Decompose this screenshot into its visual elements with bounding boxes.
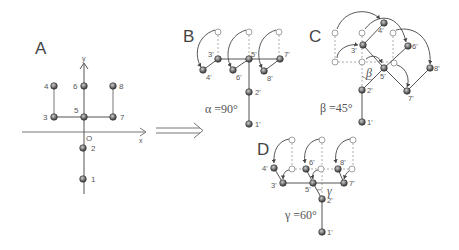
node-label-7p: 7' <box>408 94 414 103</box>
node-label-6p: 6' <box>236 73 242 82</box>
angle-label-gamma: γ =60° <box>284 208 317 222</box>
node-label-6p: 6' <box>309 158 315 167</box>
x-axis-label: x <box>139 137 143 144</box>
panel-b: B 3' 4' 5' 6' 7' 8' 2' 1' <box>183 27 290 129</box>
panel-label-b: B <box>183 27 194 46</box>
node-label-4p: 4' <box>378 26 384 35</box>
panel-label-c: C <box>309 27 321 46</box>
node-label-3p: 3' <box>351 46 357 55</box>
node-label-3p: 3' <box>208 50 214 59</box>
node-label-6: 6 <box>73 82 78 91</box>
node-3 <box>51 114 58 121</box>
panel-label-d: D <box>257 140 269 159</box>
node-2p <box>246 89 253 96</box>
node-label-5p: 5' <box>380 72 386 81</box>
node-8 <box>110 83 117 90</box>
node-label-8: 8 <box>119 82 124 91</box>
node-label-4: 4 <box>44 82 49 91</box>
node-label-3: 3 <box>43 113 48 122</box>
node-label-1p: 1' <box>255 120 261 129</box>
origin-label: O <box>86 134 92 143</box>
angle-label-beta: β =45° <box>320 101 353 115</box>
node-label-2p: 2' <box>367 86 373 95</box>
node-label-4p: 4' <box>206 73 212 82</box>
node-label-2: 2 <box>91 144 96 153</box>
node-label-6p: 6' <box>412 42 418 51</box>
node-label-8p: 8' <box>267 74 273 83</box>
node-label-1p: 1' <box>327 228 333 237</box>
panel-c: C β <box>309 12 440 127</box>
node-7 <box>110 114 117 121</box>
implies-arrow-icon <box>156 123 203 138</box>
node-label-1: 1 <box>91 175 96 184</box>
node-4 <box>51 83 58 90</box>
node-label-8p: 8' <box>434 64 440 73</box>
node-label-5p: 5' <box>251 50 257 59</box>
node-5 <box>81 114 88 121</box>
y-axis-label: y <box>82 55 86 63</box>
node-label-7p: 7' <box>284 50 290 59</box>
node-3p <box>215 56 222 63</box>
node-label-5p: 5' <box>305 185 311 194</box>
node-1 <box>80 176 87 183</box>
node-7p <box>277 56 284 63</box>
node-label-1p: 1' <box>367 118 373 127</box>
node-label-2p: 2' <box>327 196 333 205</box>
panel-d: D γ <box>257 137 356 237</box>
node-2 <box>80 145 87 152</box>
node-label-4p: 4' <box>262 164 268 173</box>
node-label-7: 7 <box>120 113 125 122</box>
panel-label-a: A <box>35 39 47 58</box>
node-label-5: 5 <box>74 106 79 115</box>
panel-a: A y x O 4 6 8 3 5 7 2 1 <box>22 39 146 194</box>
angle-label-alpha: α =90° <box>205 102 238 116</box>
node-label-2p: 2' <box>255 88 261 97</box>
node-label-8p: 8' <box>340 158 346 167</box>
node-label-7p: 7' <box>349 179 355 188</box>
node-6 <box>81 83 88 90</box>
node-label-3p: 3' <box>271 181 277 190</box>
angle-symbol-beta: β <box>365 66 372 80</box>
node-1p <box>246 121 253 128</box>
structure-transformation-diagram: A y x O 4 6 8 3 5 7 2 1 <box>0 0 459 250</box>
